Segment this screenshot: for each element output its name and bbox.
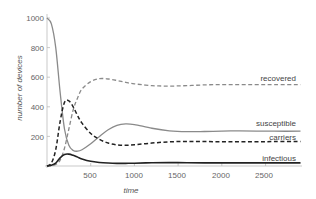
y-tick-label: 1000 bbox=[26, 14, 44, 23]
infectious-label: infectious bbox=[262, 154, 296, 163]
x-tick-label: 500 bbox=[83, 171, 97, 180]
y-ticks bbox=[47, 18, 50, 136]
epidemic-line-chart: 1000 800 600 400 200 500 1000 1500 2000 … bbox=[0, 0, 316, 199]
y-tick-label: 600 bbox=[31, 73, 45, 82]
y-axis-title: number of devices bbox=[15, 55, 24, 120]
y-tick-label: 400 bbox=[31, 103, 45, 112]
x-axis-title: time bbox=[123, 186, 139, 195]
x-tick-label: 2000 bbox=[212, 171, 230, 180]
x-tick-label: 1000 bbox=[125, 171, 143, 180]
y-tick-label: 200 bbox=[31, 133, 45, 142]
susceptible-label: susceptible bbox=[256, 119, 297, 128]
carriers-label: carriers bbox=[269, 133, 296, 142]
x-tick-label: 2500 bbox=[255, 171, 273, 180]
y-tick-label: 800 bbox=[31, 44, 45, 53]
recovered-label: recovered bbox=[260, 74, 296, 83]
x-tick-label: 1500 bbox=[168, 171, 186, 180]
